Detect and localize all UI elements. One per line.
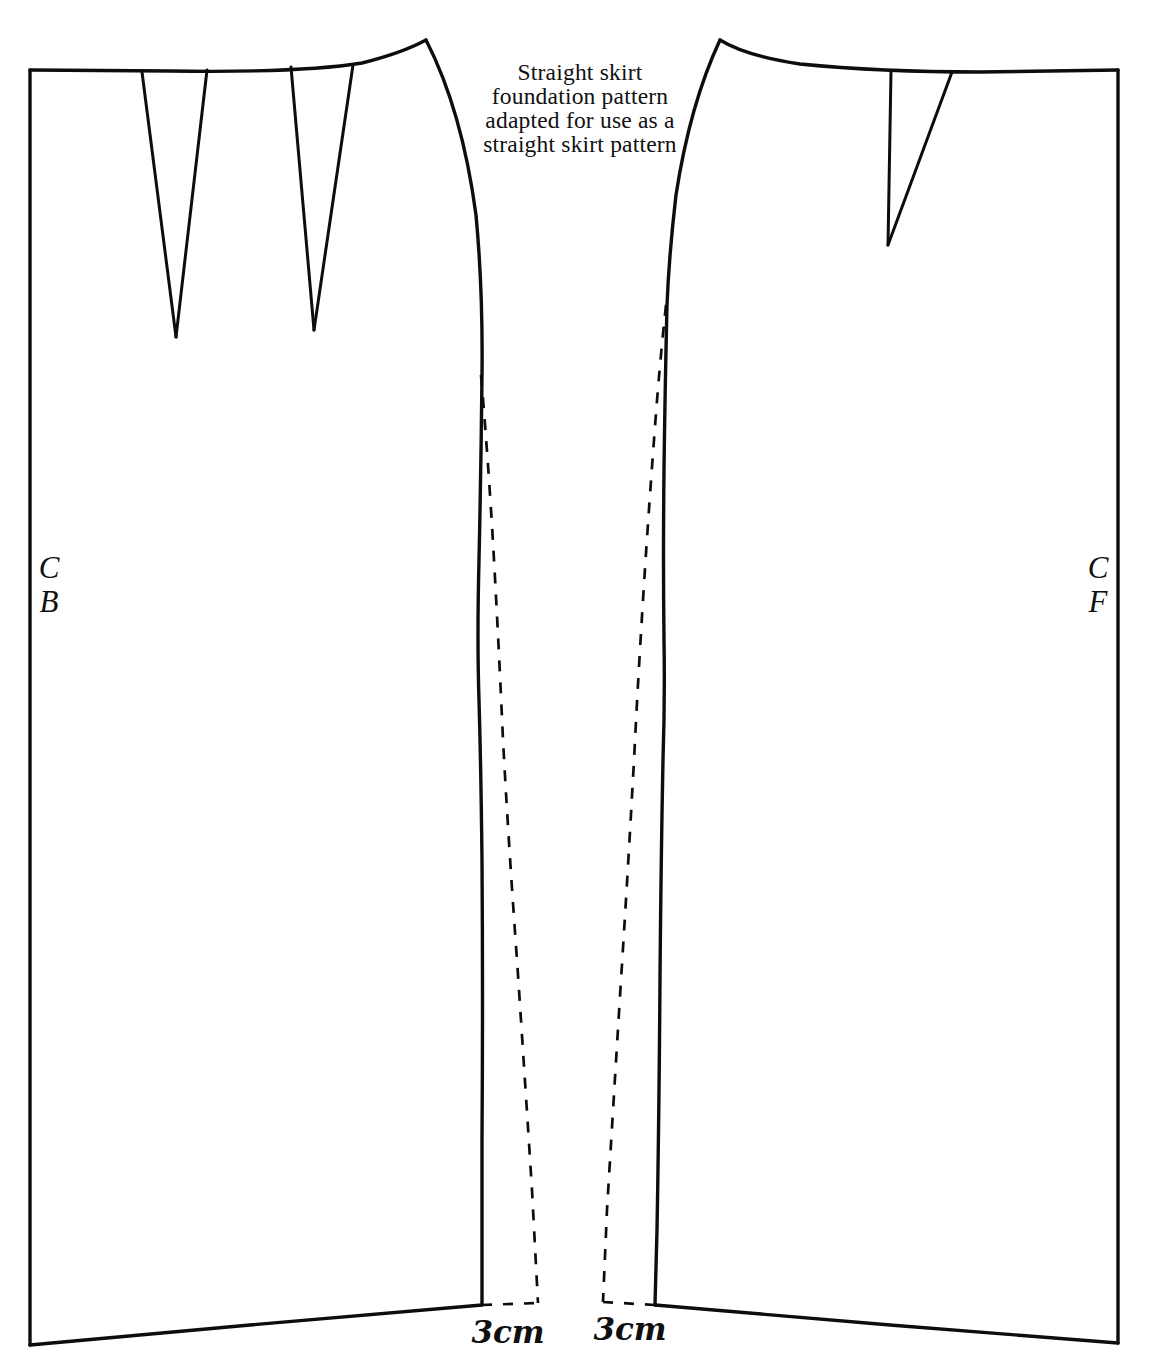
back-dart-2-left-leg — [291, 67, 314, 330]
caption-line-3: adapted for use as a — [485, 107, 675, 133]
back-hem-extension-dashed — [482, 1303, 538, 1305]
front-dart-1-right-leg — [888, 72, 952, 245]
front-hem-extension-label: 3cm — [593, 1311, 666, 1347]
figure-caption: Straight skirt foundation pattern adapte… — [483, 59, 677, 157]
front-hemline — [655, 1305, 1118, 1343]
front-fold-label-line-2: F — [1088, 584, 1109, 619]
skirt-back-panel: C B 3cm — [30, 40, 545, 1350]
back-dart-1-right-leg — [176, 70, 207, 337]
skirt-front-panel: C F 3cm — [593, 40, 1118, 1347]
caption-line-1: Straight skirt — [518, 59, 643, 85]
front-side-seam — [655, 40, 720, 1305]
back-hem-extension-label: 3cm — [471, 1314, 544, 1350]
back-side-seam — [426, 40, 483, 1305]
back-original-side-seam-dashed — [481, 375, 538, 1303]
caption-line-4: straight skirt pattern — [483, 131, 677, 157]
back-dart-1-left-leg — [142, 72, 176, 337]
front-hem-extension-dashed — [603, 1302, 655, 1305]
back-fold-label-line-2: B — [40, 584, 59, 619]
back-hemline — [30, 1305, 482, 1345]
front-dart-1 — [888, 71, 952, 245]
front-waistline — [720, 40, 1118, 72]
front-fold-label-line-1: C — [1088, 550, 1109, 585]
skirt-pattern-diagram: C B 3cm C F 3cm Straight skirt foundat — [0, 0, 1149, 1367]
back-fold-label-line-1: C — [39, 550, 60, 585]
front-dart-1-left-leg — [888, 71, 891, 245]
caption-line-2: foundation pattern — [492, 83, 669, 109]
back-waistline — [30, 40, 426, 71]
back-dart-2-right-leg — [314, 65, 353, 330]
back-dart-2 — [291, 65, 353, 330]
back-dart-1 — [142, 70, 207, 337]
